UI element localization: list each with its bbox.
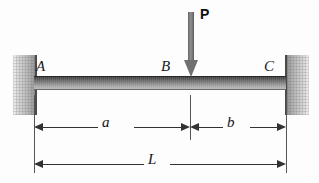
dimension-line-segment xyxy=(43,127,101,128)
dimension-label-b: b xyxy=(223,115,239,129)
beam-shading-texture xyxy=(34,77,286,89)
arrow-right-icon xyxy=(277,160,286,168)
support-hatch-texture xyxy=(13,55,35,115)
node-label-b: B xyxy=(161,59,170,74)
dimension-line-segment xyxy=(250,127,277,128)
arrow-right-icon xyxy=(181,123,190,131)
dimension-label-a: a xyxy=(98,115,114,129)
arrow-left-icon xyxy=(34,160,43,168)
dimension-a: a xyxy=(34,121,190,135)
load-arrow-shaft xyxy=(188,12,194,62)
node-label-c: C xyxy=(264,59,274,74)
arrow-left-icon xyxy=(34,123,43,131)
dimension-b: b xyxy=(190,121,286,135)
beam-member xyxy=(34,76,286,90)
arrow-left-icon xyxy=(190,123,199,131)
support-hatch-texture xyxy=(287,55,309,115)
load-label-p: P xyxy=(200,7,209,21)
node-label-a: A xyxy=(36,59,45,74)
load-arrow-head-icon xyxy=(184,60,198,77)
dimension-l: L xyxy=(34,158,286,172)
dimension-label-l: L xyxy=(144,152,160,166)
arrow-right-icon xyxy=(277,123,286,131)
fixed-support-right xyxy=(285,55,309,115)
dimension-line-segment xyxy=(43,164,146,165)
beam-diagram: A B C P a b L xyxy=(0,0,319,183)
dimension-line-segment xyxy=(134,127,181,128)
extension-line-c xyxy=(286,95,287,173)
dimension-line-segment xyxy=(170,164,277,165)
